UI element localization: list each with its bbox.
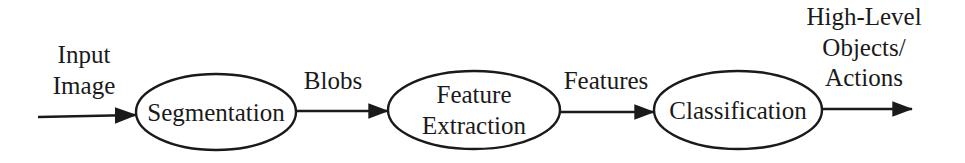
node-label-feature-extraction-line-1: Feature <box>422 80 526 111</box>
pipeline-diagram: Segmentation Feature Extraction Classifi… <box>0 0 965 163</box>
node-label-segmentation: Segmentation <box>147 98 284 129</box>
edge-label-input-image-line-1: Input <box>53 40 115 71</box>
arrow-input-to-segmentation <box>38 115 136 117</box>
edge-label-output-line-3: Actions <box>806 63 921 94</box>
node-label-feature-extraction: Feature Extraction <box>422 80 526 141</box>
edge-label-features: Features <box>564 66 649 97</box>
edge-label-output-line-2: Objects/ <box>806 33 921 64</box>
edge-label-input-image-line-2: Image <box>53 71 115 102</box>
node-label-classification-line-1: Classification <box>669 96 806 127</box>
edge-label-input-image: Input Image <box>53 40 115 101</box>
edge-label-blobs-line-1: Blobs <box>304 66 362 97</box>
node-label-segmentation-line-1: Segmentation <box>147 98 284 129</box>
edge-label-features-line-1: Features <box>564 66 649 97</box>
edge-label-output-line-1: High-Level <box>806 2 921 33</box>
edge-label-blobs: Blobs <box>304 66 362 97</box>
node-label-classification: Classification <box>669 96 806 127</box>
node-label-feature-extraction-line-2: Extraction <box>422 110 526 141</box>
edge-label-high-level-objects-actions: High-Level Objects/ Actions <box>806 2 921 94</box>
